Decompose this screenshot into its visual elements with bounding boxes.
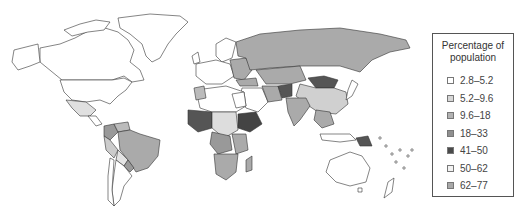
region-madagascar [246, 156, 252, 172]
region-uk [192, 52, 200, 64]
region-central-america [88, 116, 102, 126]
legend-label: 9.6–18 [460, 110, 491, 121]
world-choropleth-map [0, 0, 440, 212]
region-tasmania [358, 188, 362, 192]
legend-item: 2.8–5.2 [447, 72, 513, 90]
legend-label: 18–33 [460, 128, 488, 139]
region-indonesia [320, 134, 356, 142]
region-new-zealand [384, 178, 394, 198]
legend-swatch-icon [447, 130, 454, 137]
legend-swatch-icon [447, 112, 454, 119]
region-mexico [66, 100, 96, 116]
region-horn-africa [238, 112, 262, 132]
legend-title-line1: Percentage of [433, 40, 513, 52]
region-india [286, 98, 310, 126]
legend-list: 2.8–5.2 5.2–9.6 9.6–18 18–33 41–50 50–62… [433, 72, 513, 195]
legend-item: 41–50 [447, 142, 513, 160]
region-west-africa [188, 110, 212, 132]
legend-label: 41–50 [460, 145, 488, 156]
legend-label: 50–62 [460, 163, 488, 174]
legend-item: 5.2–9.6 [447, 90, 513, 108]
region-western-europe [196, 60, 234, 84]
legend-swatch-icon [447, 182, 454, 189]
region-australia [326, 152, 370, 186]
region-pacific-islands [379, 137, 413, 169]
region-mongolia [308, 76, 338, 88]
legend-swatch-icon [447, 165, 454, 172]
legend-swatch-icon [447, 95, 454, 102]
legend-label: 2.8–5.2 [460, 75, 493, 86]
legend-label: 62–77 [460, 180, 488, 191]
region-scandinavia [216, 38, 236, 62]
region-russia [236, 28, 410, 72]
legend-swatch-icon [447, 77, 454, 84]
map-legend: Percentage of population 2.8–5.2 5.2–9.6… [432, 33, 514, 197]
region-japan [346, 80, 358, 100]
legend-item: 18–33 [447, 125, 513, 143]
region-east-africa [232, 134, 248, 154]
legend-swatch-icon [447, 147, 454, 154]
legend-item: 9.6–18 [447, 107, 513, 125]
legend-label: 5.2–9.6 [460, 93, 493, 104]
legend-item: 50–62 [447, 160, 513, 178]
legend-item: 62–77 [447, 177, 513, 195]
region-papua [356, 136, 372, 146]
region-morocco [194, 86, 206, 100]
region-usa [60, 78, 132, 104]
region-alaska [12, 44, 40, 70]
legend-title: Percentage of population [433, 40, 513, 64]
legend-title-line2: population [433, 52, 513, 64]
region-southern-africa [214, 154, 238, 180]
region-canada [40, 28, 144, 82]
